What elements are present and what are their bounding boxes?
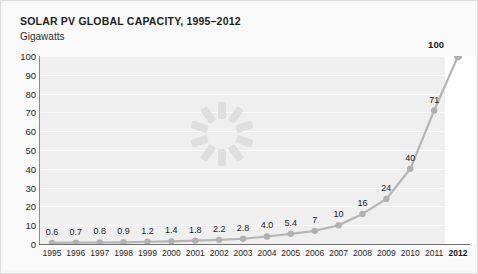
spinner-spoke (190, 120, 209, 133)
x-axis-tick-label: 2005 (281, 248, 300, 258)
page-title: SOLAR PV GLOBAL CAPACITY, 1995–2012 (20, 15, 241, 27)
data-point-marker (312, 228, 318, 234)
data-point-marker (335, 222, 341, 228)
data-point-marker (359, 211, 365, 217)
y-axis: 1009080706050403020100 (4, 4, 36, 274)
x-axis-tick-label: 2000 (162, 248, 181, 258)
chart-figure: SOLAR PV GLOBAL CAPACITY, 1995–2012 Giga… (0, 0, 478, 274)
spinner-spoke (228, 106, 244, 124)
spinner-spoke (235, 135, 254, 148)
data-point-label: 71 (429, 95, 439, 105)
data-point-label: 5.4 (285, 218, 298, 228)
data-point-marker (383, 196, 389, 202)
x-axis-line (39, 244, 470, 245)
x-axis-tick-label: 2006 (305, 248, 324, 258)
data-point-marker (240, 236, 246, 242)
x-axis-tick-label: 2010 (401, 248, 420, 258)
data-point-label: 0.9 (117, 226, 130, 236)
y-axis-tick-label: 80 (6, 88, 36, 99)
loading-spinner-icon (190, 102, 254, 166)
data-point-label: 0.6 (46, 227, 59, 237)
y-axis-tick-label: 30 (6, 182, 36, 193)
y-axis-tick-label: 40 (6, 163, 36, 174)
x-axis-tick-label: 2012 (448, 248, 469, 258)
y-axis-tick-label: 50 (6, 145, 36, 156)
data-point-marker (192, 237, 198, 243)
data-point-marker (431, 107, 437, 113)
data-point-marker (144, 239, 150, 244)
spinner-spoke (200, 106, 216, 124)
y-axis-tick-label: 100 (6, 51, 36, 62)
spinner-spoke (228, 144, 244, 162)
y-axis-tick-label: 20 (6, 201, 36, 212)
x-axis-tick-label: 2011 (425, 248, 443, 258)
series-line (40, 56, 470, 244)
data-point-label: 100 (428, 39, 444, 50)
x-axis-tick-label: 1999 (138, 248, 157, 258)
y-axis-tick-label: 0 (6, 239, 36, 250)
x-axis-tick-label: 2001 (186, 248, 205, 258)
x-axis-tick-label: 1996 (66, 248, 85, 258)
data-point-marker (49, 240, 55, 244)
data-point-marker (264, 233, 270, 239)
data-point-label: 2.8 (237, 223, 250, 233)
data-point-label: 4.0 (261, 220, 274, 230)
figure-canvas: SOLAR PV GLOBAL CAPACITY, 1995–2012 Giga… (4, 4, 474, 270)
data-point-label: 24 (381, 183, 391, 193)
data-point-label: 7 (312, 215, 317, 225)
x-axis-tick-label: 1998 (114, 248, 133, 258)
data-point-marker (73, 239, 79, 244)
data-point-label: 2.2 (213, 224, 226, 234)
x-axis-tick-label: 2009 (377, 248, 396, 258)
x-axis: 1995199619971998199920002001200220032004… (40, 248, 470, 264)
data-point-marker (454, 56, 462, 60)
spinner-spoke (235, 120, 254, 133)
spinner-spoke (200, 144, 216, 162)
spinner-spoke (190, 135, 209, 148)
y-axis-tick-label: 60 (6, 126, 36, 137)
x-axis-tick-label: 2008 (353, 248, 372, 258)
series-path (52, 56, 458, 243)
data-point-marker (168, 238, 174, 244)
x-axis-tick-label: 2002 (210, 248, 229, 258)
data-point-label: 0.7 (70, 227, 83, 237)
y-axis-tick-label: 10 (6, 220, 36, 231)
x-axis-tick-label: 1995 (42, 248, 61, 258)
data-point-label: 16 (357, 198, 367, 208)
data-point-label: 1.8 (189, 225, 202, 235)
x-axis-tick-label: 2003 (234, 248, 253, 258)
spinner-spoke (218, 102, 226, 119)
data-point-marker (120, 239, 126, 244)
data-point-label: 10 (334, 209, 344, 219)
x-axis-tick-label: 2004 (257, 248, 276, 258)
data-point-label: 40 (405, 153, 415, 163)
y-axis-tick-label: 70 (6, 107, 36, 118)
x-axis-tick-label: 1997 (90, 248, 109, 258)
data-point-label: 1.2 (141, 226, 154, 236)
data-point-marker (97, 239, 103, 244)
data-point-marker (216, 237, 222, 243)
data-point-label: 1.4 (165, 225, 178, 235)
data-point-marker (407, 166, 413, 172)
spinner-spoke (218, 149, 226, 166)
y-axis-tick-label: 90 (6, 69, 36, 80)
data-point-marker (288, 231, 294, 237)
data-point-label: 0.8 (93, 226, 106, 236)
x-axis-tick-label: 2007 (329, 248, 348, 258)
